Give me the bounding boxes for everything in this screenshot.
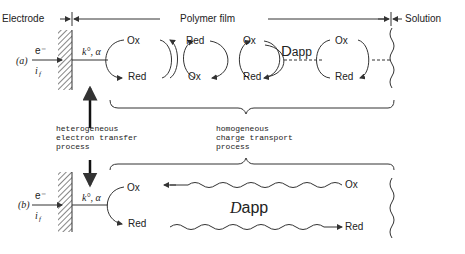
brace-a [110, 100, 394, 114]
cycle-2-bottom: Ox [188, 71, 201, 82]
wavy-red-line [170, 225, 342, 230]
panel-b-label: (b) [18, 199, 30, 211]
cycle-arc-4 [317, 40, 331, 78]
panel-a-label: (a) [16, 55, 28, 67]
solution-label: Solution [405, 13, 441, 24]
cycle-1-bottom: Red [128, 71, 146, 82]
ox-right-b: Ox [345, 179, 358, 190]
cycle-2-top: Red [186, 35, 204, 46]
hetero-line-3: process [56, 142, 90, 151]
dapp-b: Dapp [229, 199, 268, 216]
svg-text:f: f [39, 215, 42, 223]
hetero-line-2: electron transfer [56, 133, 138, 142]
solution-interface-b [390, 178, 394, 238]
current-b: i [35, 210, 38, 221]
cycle-arc-b [107, 187, 124, 224]
cycle-1-top: Ox [127, 35, 140, 46]
red-right-b: Red [345, 221, 363, 232]
homo-line-1: homogeneous [216, 124, 269, 133]
brace-b [110, 158, 394, 170]
polymer-film-label: Polymer film [180, 13, 235, 24]
red-b: Red [128, 218, 146, 229]
diagram: Electrode Polymer film Solution (a) e⁻ i… [0, 0, 465, 254]
cycle-4-top: Ox [335, 35, 348, 46]
cycle-3-top: Ox [243, 35, 256, 46]
homo-line-2: charge transport [216, 133, 293, 142]
electrode-label: Electrode [2, 13, 45, 24]
hetero-line-1: heterogeneous [56, 124, 119, 133]
ox-b: Ox [127, 182, 140, 193]
electron-a: e⁻ [35, 45, 46, 56]
electrode-b [58, 172, 72, 232]
homo-line-3: process [216, 142, 250, 151]
wavy-ox-line [170, 183, 342, 188]
svg-text:f: f [39, 70, 42, 78]
cycle-arc-1 [106, 40, 124, 78]
cycle-4-bottom: Red [335, 71, 353, 82]
rate-constant-a: k°, α [82, 46, 101, 57]
rate-constant-b: k°, α [82, 192, 101, 203]
solution-interface-a [390, 28, 394, 88]
cycle-3-bottom: Red [243, 71, 261, 82]
dapp-a: Dapp [281, 42, 312, 59]
current-a: i [35, 65, 38, 76]
electron-b: e⁻ [35, 190, 46, 201]
